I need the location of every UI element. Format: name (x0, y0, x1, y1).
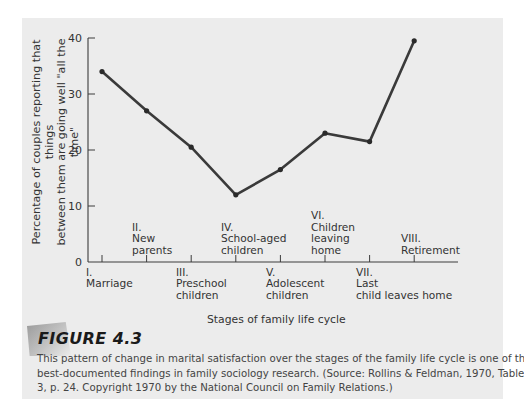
stage-label: VI.Childrenleavinghome (311, 210, 355, 256)
stage-label-line: child leaves home (356, 290, 452, 301)
stage-label-line: children (221, 245, 286, 256)
stage-label-line: children (266, 290, 324, 301)
caption-line-1: This pattern of change in marital satisf… (37, 352, 497, 367)
data-series (99, 38, 416, 197)
caption-line-3: 3, p. 24. Copyright 1970 by the National… (37, 381, 497, 396)
stage-label: III.Preschoolchildren (176, 267, 227, 301)
stage-label-line: New (132, 233, 172, 244)
data-point (367, 139, 372, 144)
stage-label-line: School-aged (221, 233, 286, 244)
figure-caption: This pattern of change in marital satisf… (37, 352, 497, 396)
stage-label-line: Retirement (401, 245, 460, 256)
y-axis-label-line-2: between them are going well "all the tim… (56, 32, 81, 252)
stage-label: VIII.Retirement (401, 233, 460, 256)
stage-label: II.Newparents (132, 222, 172, 256)
data-point (278, 167, 283, 172)
data-point (99, 69, 104, 74)
data-point (233, 192, 238, 197)
x-axis-label: Stages of family life cycle (207, 313, 346, 326)
stage-label-line: children (176, 290, 227, 301)
stage-label-line: VIII. (401, 233, 460, 244)
y-axis-label: Percentage of couples reporting that thi… (31, 32, 65, 252)
caption-line-2: best-documented findings in family socio… (37, 367, 497, 382)
stage-label-line: parents (132, 245, 172, 256)
y-tick-label: 0 (75, 256, 82, 269)
data-point (144, 108, 149, 113)
stage-label-line: leaving (311, 233, 355, 244)
stage-label-line: Marriage (86, 278, 133, 289)
data-point (322, 131, 327, 136)
figure-title: FIGURE 4.3 (38, 329, 142, 348)
stage-label: IV.School-agedchildren (221, 222, 286, 256)
series-line (102, 41, 414, 195)
stage-label: V.Adolescentchildren (266, 267, 324, 301)
stage-label-line: home (311, 245, 355, 256)
data-point (412, 38, 417, 43)
stage-label: VII.Lastchild leaves home (356, 267, 452, 301)
data-point (189, 145, 194, 150)
stage-label: I.Marriage (86, 267, 133, 290)
y-axis-label-line-1: Percentage of couples reporting that thi… (31, 32, 56, 252)
